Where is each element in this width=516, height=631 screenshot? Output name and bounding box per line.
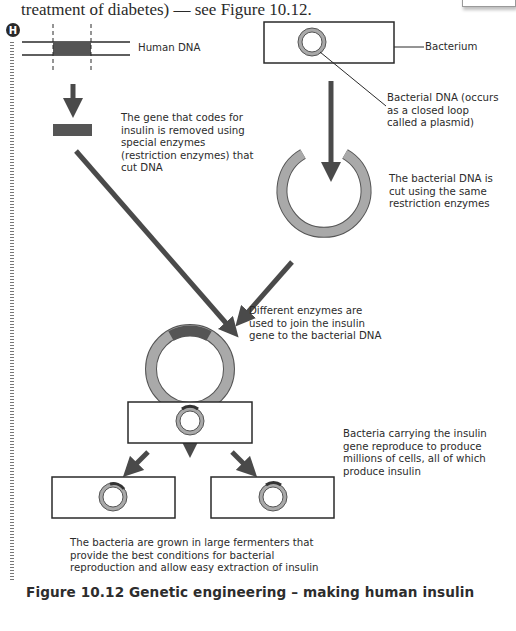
arrow-down-left-icon	[130, 452, 148, 470]
label-fermenters: The bacteria are grown in large fermente…	[70, 537, 330, 575]
insulin-gene-segment	[53, 124, 92, 136]
arrow-down-right-icon	[232, 452, 250, 470]
higher-tier-badge-icon: H	[6, 23, 20, 37]
cut-plasmid	[282, 154, 366, 232]
daughter-bacterium-left	[52, 477, 175, 518]
recombinant-plasmid	[151, 330, 229, 408]
label-human-dna: Human DNA	[138, 42, 200, 55]
arrow-diagonal-icon	[76, 151, 232, 330]
label-bacterial-dna: Bacterial DNA (occurs as a closed loop c…	[387, 92, 499, 130]
label-dna-cut: The bacterial DNA is cut using the same …	[389, 173, 507, 211]
label-bacteria-reproduce: Bacteria carrying the insulin gene repro…	[343, 428, 503, 478]
human-dna-strand	[22, 24, 130, 72]
label-enzymes-join: Different enzymes are used to join the i…	[249, 305, 389, 343]
transformed-bacterium	[128, 402, 252, 443]
figure-caption: Figure 10.12 Genetic engineering – makin…	[26, 584, 474, 600]
svg-text:H: H	[9, 25, 17, 36]
label-gene-removed: The gene that codes for insulin is remov…	[121, 112, 261, 175]
label-bacterium: Bacterium	[425, 41, 478, 54]
daughter-bacterium-right	[211, 477, 334, 518]
